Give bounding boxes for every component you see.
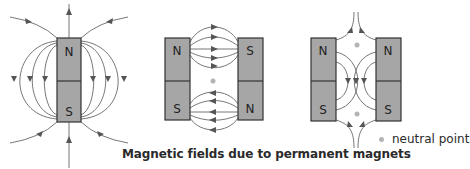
pole-label-n: N xyxy=(65,45,74,59)
svg-text:S: S xyxy=(319,103,327,117)
legend-label: neutral point xyxy=(392,132,469,146)
svg-text:S: S xyxy=(173,102,181,116)
neutral-point-legend-icon xyxy=(379,137,384,142)
svg-text:S: S xyxy=(246,44,254,58)
legend: neutral point xyxy=(379,132,469,146)
neutral-point xyxy=(211,79,216,84)
neutral-point-bottom xyxy=(355,112,360,117)
svg-text:N: N xyxy=(319,44,328,58)
svg-text:N: N xyxy=(173,44,182,58)
neutral-point-top xyxy=(355,43,360,48)
pole-label-s: S xyxy=(65,105,73,119)
svg-text:N: N xyxy=(384,44,393,58)
single-magnet-field: N S xyxy=(10,4,128,168)
svg-text:S: S xyxy=(384,103,392,117)
repelling-magnets-field: N S N S xyxy=(311,12,401,148)
attracting-magnets-field: N S S N xyxy=(165,24,263,133)
svg-text:N: N xyxy=(246,102,255,116)
figure-caption: Magnetic fields due to permanent magnets xyxy=(122,147,411,161)
